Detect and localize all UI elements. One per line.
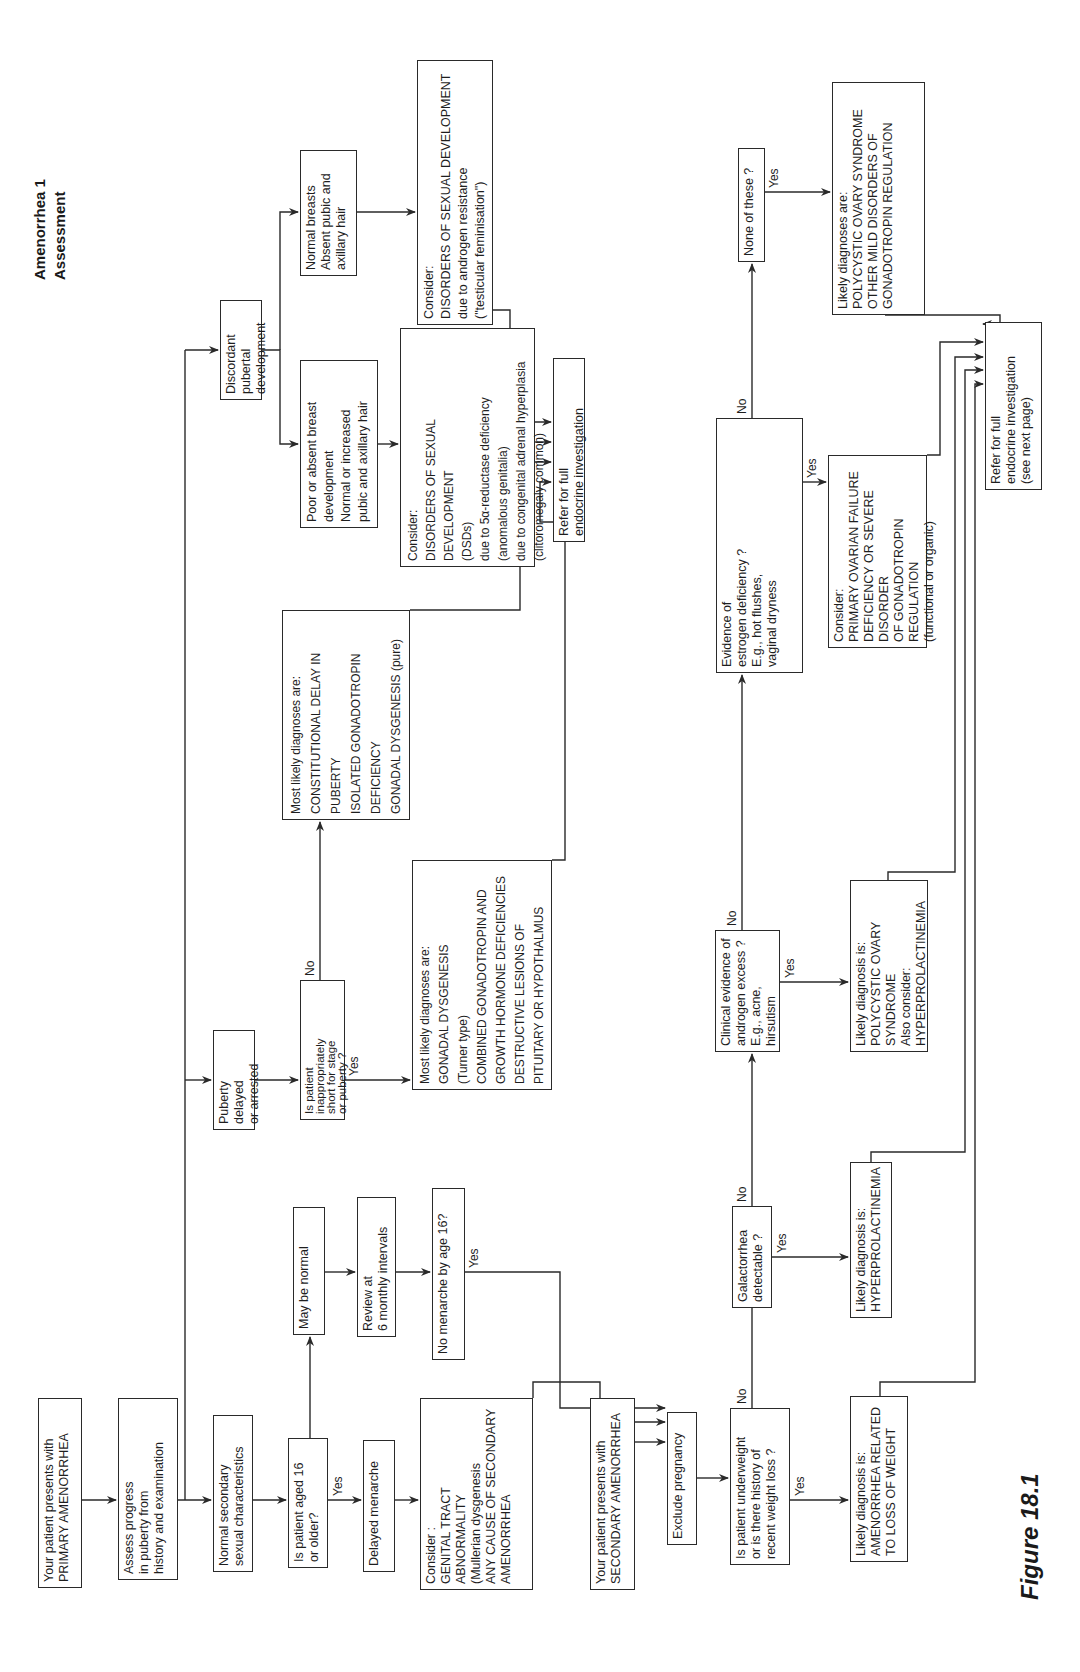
label-underweight-yes: Yes bbox=[794, 1476, 807, 1496]
node-hyperprolactinemia-diagnosis: Likely diagnosis is: HYPERPROLACTINEMIA bbox=[850, 1162, 892, 1318]
label-estrogen-no: No bbox=[736, 399, 749, 414]
label-none-yes: Yes bbox=[768, 168, 781, 188]
node-pcos-mild-diagnosis: Likely diagnoses are: POLYCYSTIC OVARY S… bbox=[832, 82, 925, 315]
node-discordant: Discordant pubertal development bbox=[220, 300, 262, 400]
node-may-be-normal: May be normal bbox=[293, 1207, 325, 1335]
label-aged16-yes: Yes bbox=[332, 1476, 345, 1496]
node-short-no-diagnoses: Most likely diagnoses are: CONSTITUTIONA… bbox=[282, 610, 410, 820]
node-normal-secondary: Normal secondary sexual characteristics bbox=[213, 1415, 253, 1572]
flowchart-canvas: Amenorrhea 1 Assessment Your patient pre… bbox=[0, 0, 1080, 1672]
diagram-title: Amenorrhea 1 Assessment bbox=[30, 179, 70, 280]
label-no-menarche-yes: Yes bbox=[468, 1248, 481, 1268]
node-puberty-delayed: Puberty delayed or arrested bbox=[213, 1030, 255, 1130]
node-delayed-menarche: Delayed menarche bbox=[363, 1440, 395, 1572]
node-ovarian-failure: Consider: PRIMARY OVARIAN FAILURE DEFICI… bbox=[828, 455, 927, 648]
node-no-menarche: No menarche by age 16? bbox=[432, 1188, 465, 1360]
node-dsd-5alpha: Consider: DISORDERS OF SEXUAL DEVELOPMEN… bbox=[400, 328, 535, 567]
node-review: Review at 6 monthly intervals bbox=[357, 1197, 396, 1337]
node-exclude-pregnancy: Exclude pregnancy bbox=[667, 1412, 697, 1545]
node-estrogen-deficiency: Evidence of estrogen deficiency ? E.g., … bbox=[716, 418, 803, 673]
label-short-yes: Yes bbox=[348, 1056, 361, 1076]
node-refer-primary: Refer for full endocrine investigation bbox=[553, 358, 585, 542]
label-underweight-no: No bbox=[736, 1389, 749, 1404]
label-estrogen-yes: Yes bbox=[806, 458, 819, 478]
title-text: Amenorrhea 1 bbox=[30, 179, 50, 280]
label-androgen-yes: Yes bbox=[784, 958, 797, 978]
node-secondary-amenorrhea: Your patient presents with SECONDARY AME… bbox=[590, 1398, 635, 1590]
node-short-yes-diagnoses: Most likely diagnoses are: GONADAL DYSGE… bbox=[412, 860, 552, 1090]
node-primary-amenorrhea: Your patient presents with PRIMARY AMENO… bbox=[38, 1398, 82, 1588]
figure-caption: Figure 18.1 bbox=[1016, 1473, 1044, 1600]
node-androgen-excess: Clinical evidence of androgen excess ? E… bbox=[715, 930, 780, 1052]
node-underweight: Is patient underweight or is there histo… bbox=[730, 1408, 790, 1565]
node-assess-progress: Assess progress in puberty from history … bbox=[118, 1398, 178, 1580]
node-poor-breast: Poor or absent breast development Normal… bbox=[300, 360, 378, 528]
node-aged-16: Is patient aged 16 or older? bbox=[288, 1438, 328, 1568]
label-galactorrhea-yes: Yes bbox=[776, 1233, 789, 1253]
node-genital-tract: Consider : GENITAL TRACT ABNORMALITY (Mu… bbox=[420, 1398, 533, 1590]
node-none-of-these: None of these ? bbox=[738, 148, 765, 262]
label-androgen-no: No bbox=[726, 911, 739, 926]
node-pcos-diagnosis: Likely diagnosis is: POLYCYSTIC OVARY SY… bbox=[850, 880, 928, 1052]
subtitle-text: Assessment bbox=[50, 179, 70, 280]
node-dsd-androgen: Consider: DISORDERS OF SEXUAL DEVELOPMEN… bbox=[417, 60, 493, 325]
node-weight-loss-diagnosis: Likely diagnosis is: AMENORRHEA RELATED … bbox=[850, 1396, 908, 1562]
node-galactorrhea: Galactorrhea detectable ? bbox=[732, 1206, 772, 1308]
node-refer-secondary: Refer for full endocrine investigation (… bbox=[985, 322, 1042, 490]
label-galactorrhea-no: No bbox=[736, 1187, 749, 1202]
label-short-no: No bbox=[304, 961, 317, 976]
node-normal-breasts: Normal breasts Absent pubic and axillary… bbox=[300, 150, 357, 276]
node-short-stature: Is patient inappropriately short for sta… bbox=[300, 980, 345, 1120]
